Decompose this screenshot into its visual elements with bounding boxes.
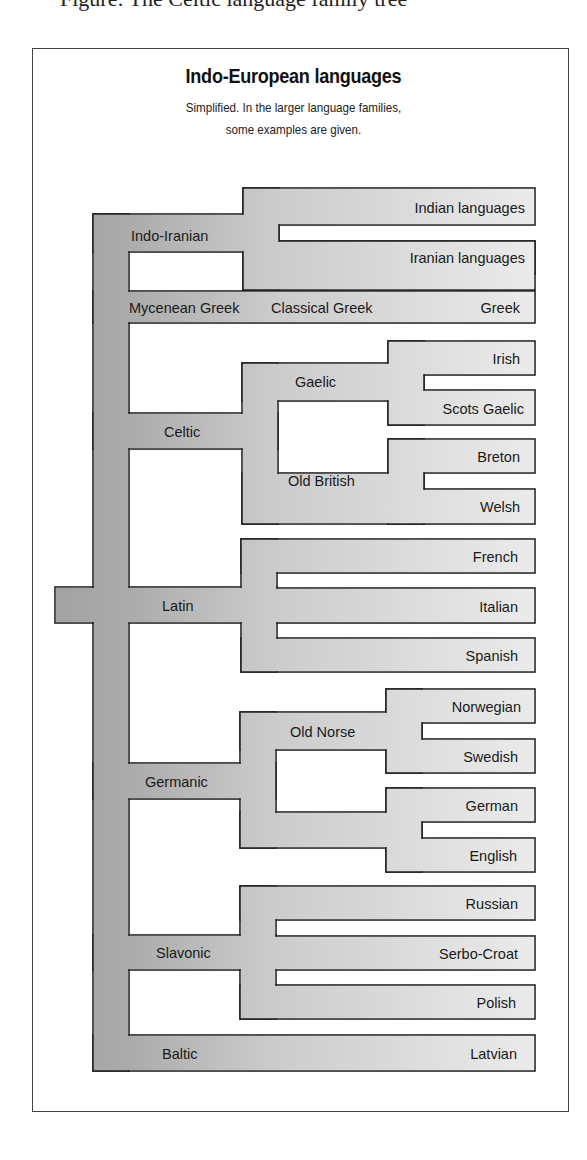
node-germanic: Germanic bbox=[145, 774, 208, 790]
leaf-indian-languages: Indian languages bbox=[415, 200, 525, 216]
leaf-latvian: Latvian bbox=[470, 1046, 517, 1062]
language-tree: Indo-Iranian Indian languages Iranian la… bbox=[0, 0, 587, 1160]
leaf-polish: Polish bbox=[477, 995, 517, 1011]
leaf-breton: Breton bbox=[477, 449, 520, 465]
node-baltic: Baltic bbox=[162, 1046, 197, 1062]
leaf-norwegian: Norwegian bbox=[452, 699, 521, 715]
leaf-scots-gaelic: Scots Gaelic bbox=[443, 401, 524, 417]
tree-labels: Indo-Iranian Indian languages Iranian la… bbox=[129, 200, 525, 1062]
leaf-greek: Greek bbox=[481, 300, 521, 316]
leaf-italian: Italian bbox=[479, 599, 518, 615]
leaf-english: English bbox=[469, 848, 517, 864]
node-mycenean-greek: Mycenean Greek bbox=[129, 300, 240, 316]
leaf-french: French bbox=[473, 549, 518, 565]
node-latin: Latin bbox=[162, 598, 193, 614]
leaf-welsh: Welsh bbox=[480, 499, 520, 515]
leaf-irish: Irish bbox=[493, 351, 520, 367]
node-indo-iranian: Indo-Iranian bbox=[131, 228, 208, 244]
leaf-swedish: Swedish bbox=[463, 749, 518, 765]
leaf-russian: Russian bbox=[466, 896, 518, 912]
node-old-norse: Old Norse bbox=[290, 724, 355, 740]
node-gaelic: Gaelic bbox=[295, 374, 336, 390]
node-old-british: Old British bbox=[288, 473, 355, 489]
leaf-iranian-languages: Iranian languages bbox=[410, 250, 525, 266]
tree-fill bbox=[56, 189, 534, 1070]
node-classical-greek: Classical Greek bbox=[271, 300, 373, 316]
leaf-spanish: Spanish bbox=[466, 648, 518, 664]
leaf-serbo-croat: Serbo-Croat bbox=[439, 946, 518, 962]
node-slavonic: Slavonic bbox=[156, 945, 211, 961]
node-celtic: Celtic bbox=[164, 424, 200, 440]
leaf-german: German bbox=[466, 798, 518, 814]
